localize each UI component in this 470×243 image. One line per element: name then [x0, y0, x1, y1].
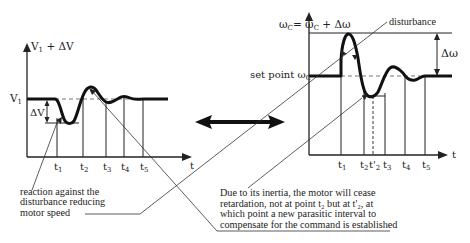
- left-note: reaction against the disturbance reducin…: [20, 186, 105, 218]
- right-tick-label-t3: t3: [383, 159, 392, 172]
- right-response-curve: [309, 34, 452, 97]
- left-x-axis-label: t: [190, 160, 194, 171]
- leader-right-note: [248, 98, 362, 188]
- right-note-line: Due to its inertia, the motor will cease: [220, 187, 376, 198]
- arrow-up-icon: [45, 100, 50, 106]
- right-chart: ωC= ωC + Δω set point ωC Δω t disturbanc…: [250, 12, 458, 172]
- left-note-line: disturbance reducing: [20, 196, 105, 207]
- left-tick-label-t5: t5: [140, 161, 149, 174]
- right-tick-label-t2-prime: t'2: [369, 159, 380, 172]
- right-y-axis-label: ωC= ωC + Δω: [279, 18, 351, 32]
- left-delta-label: ΔV: [30, 107, 45, 118]
- motor-speed-diagram: V1 + ΔV V1 ΔV t t1 t2 t3 t4 t5: [0, 0, 470, 243]
- arrow-up-icon: [434, 33, 440, 40]
- right-tick-label-t4: t4: [402, 159, 411, 172]
- leader-left-trough: [32, 120, 58, 190]
- left-tick-label-t3: t3: [103, 161, 112, 174]
- right-tick-label-t2: t2: [360, 159, 369, 172]
- right-tick-label-t1: t1: [338, 159, 347, 172]
- left-note-line: motor speed: [20, 207, 70, 218]
- right-note: Due to its inertia, the motor will cease…: [220, 187, 397, 230]
- right-setpoint-label: set point ωC: [250, 69, 311, 82]
- right-tick-label-t5: t5: [422, 159, 431, 172]
- right-x-axis-label: t: [452, 149, 456, 160]
- left-tick-label-t2: t2: [80, 161, 89, 174]
- left-y-axis-arrow-icon: [23, 43, 31, 52]
- left-chart: V1 + ΔV V1 ΔV t t1 t2 t3 t4 t5: [9, 40, 194, 174]
- double-arrow-icon: [195, 115, 285, 129]
- arrow-down-icon: [45, 117, 50, 123]
- diagram-stage: V1 + ΔV V1 ΔV t t1 t2 t3 t4 t5: [0, 0, 470, 243]
- right-delta-label: Δω: [441, 47, 458, 60]
- right-note-line: compensate for the command is establishe…: [220, 219, 397, 230]
- left-tick-label-t4: t4: [121, 161, 130, 174]
- right-note-line: which point a new parasitic interval to: [220, 208, 376, 219]
- disturbance-label: disturbance: [389, 16, 436, 27]
- left-level-label: V1: [9, 92, 22, 106]
- right-x-axis-arrow-icon: [438, 151, 448, 159]
- left-tick-label-t1: t1: [54, 161, 63, 174]
- left-y-axis-label: V1 + ΔV: [30, 40, 74, 54]
